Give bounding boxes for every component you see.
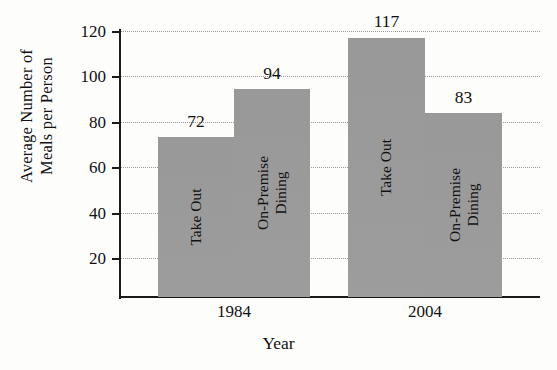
gridline-100 — [120, 76, 540, 77]
value-label-1984-on-premise-dining: 94 — [234, 65, 310, 83]
y-axis-title-line-1: Average Number of — [17, 49, 37, 183]
x-axis-group-label-1984: 1984 — [194, 303, 274, 320]
x-axis-title: Year — [0, 335, 557, 353]
y-tick-mark-20 — [112, 258, 121, 260]
y-axis-title: Average Number of Meals per Person — [6, 0, 68, 241]
bar-label-line-1: On-Premise — [445, 168, 463, 242]
bar-chart: Average Number of Meals per Person 120 1… — [0, 0, 557, 370]
value-label-2004-take-out: 117 — [348, 13, 425, 31]
value-label-2004-on-premise-dining: 83 — [425, 89, 502, 107]
x-axis-group-label-2004: 2004 — [385, 303, 465, 320]
y-tick-label-40: 40 — [62, 205, 106, 222]
y-tick-label-60: 60 — [62, 159, 106, 176]
bar-label-2004-on-premise-dining: On-Premise Dining — [372, 167, 556, 244]
y-tick-label-80: 80 — [62, 114, 106, 131]
y-tick-mark-120 — [112, 31, 121, 33]
y-tick-label-100: 100 — [62, 68, 106, 85]
y-tick-mark-80 — [112, 122, 121, 124]
y-tick-label-60b: 20 — [62, 250, 106, 267]
gridline-120 — [120, 31, 540, 32]
y-tick-mark-60 — [112, 167, 121, 169]
y-axis-title-line-2: Meals per Person — [37, 57, 57, 175]
y-tick-mark-100 — [112, 76, 121, 78]
y-tick-label-120: 120 — [62, 23, 106, 40]
value-label-1984-take-out: 72 — [158, 113, 234, 131]
bar-label-line-2: Dining — [464, 183, 482, 226]
